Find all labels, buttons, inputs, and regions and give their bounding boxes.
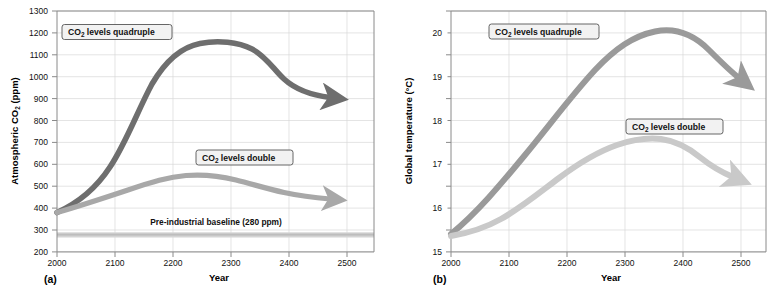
- annotation-preindustrial-baseline: Pre-industrial baseline (280 ppm): [150, 217, 282, 227]
- y-tick-label-a-900: 900: [34, 94, 48, 104]
- x-axis-title-a: Year: [209, 272, 229, 283]
- x-axis-title-b: Year: [601, 272, 621, 283]
- x-tick-label-b-2500: 2500: [732, 258, 751, 268]
- panel-a-svg: 1300 1200 1100 1000 900 800 700 600 500 …: [0, 0, 389, 292]
- callout-a-double-label: CO2 levels double: [202, 153, 276, 164]
- y-tick-label-a-400: 400: [34, 203, 48, 213]
- x-ticks-a: [57, 252, 347, 257]
- y-tick-label-a-800: 800: [34, 116, 48, 126]
- y-tick-label-a-200: 200: [34, 247, 48, 257]
- y-tick-label-b-16: 16: [433, 203, 443, 213]
- figure-two-panel-climate-projection: 1300 1200 1100 1000 900 800 700 600 500 …: [0, 0, 778, 292]
- y-tick-label-a-1100: 1100: [30, 50, 49, 60]
- y-tick-label-a-1200: 1200: [29, 28, 48, 38]
- x-tick-label-a-2000: 2000: [48, 258, 67, 268]
- y-tick-label-a-1300: 1300: [29, 6, 48, 16]
- y-tick-label-a-300: 300: [34, 225, 48, 235]
- callout-a-double[interactable]: CO2 levels double: [196, 150, 293, 165]
- y-tick-label-b-19: 19: [433, 72, 443, 82]
- callout-b-double[interactable]: CO2 levels double: [626, 119, 723, 134]
- x-tick-label-a-2400: 2400: [280, 258, 299, 268]
- callout-a-quadruple[interactable]: CO2 levels quadruple: [62, 25, 172, 40]
- y-axis-title-b: Global temperature (°C): [403, 78, 414, 185]
- x-tick-label-a-2500: 2500: [338, 258, 357, 268]
- x-ticks-b: [451, 252, 741, 257]
- x-tick-label-a-2100: 2100: [106, 258, 125, 268]
- panel-b-svg: 20 19 18 17 16 15 2000 2100 2200 2300 24…: [389, 0, 778, 292]
- panel-a-atmospheric-co2: 1300 1200 1100 1000 900 800 700 600 500 …: [0, 0, 389, 292]
- y-ticks-b: [446, 11, 451, 252]
- y-tick-label-b-18: 18: [433, 116, 443, 126]
- panel-letter-b: (b): [433, 273, 446, 285]
- y-tick-label-a-500: 500: [34, 181, 48, 191]
- y-tick-label-b-17: 17: [433, 159, 443, 169]
- y-tick-label-b-15: 15: [433, 247, 443, 257]
- x-tick-label-b-2400: 2400: [674, 258, 693, 268]
- x-tick-label-b-2200: 2200: [558, 258, 577, 268]
- y-tick-label-b-20: 20: [433, 28, 443, 38]
- callout-b-quadruple[interactable]: CO2 levels quadruple: [489, 24, 599, 39]
- x-tick-label-a-2300: 2300: [222, 258, 241, 268]
- x-tick-label-b-2000: 2000: [442, 258, 461, 268]
- y-tick-label-a-600: 600: [34, 159, 48, 169]
- y-ticks-a: [52, 11, 57, 252]
- x-tick-label-a-2200: 2200: [164, 258, 183, 268]
- panel-b-global-temperature: 20 19 18 17 16 15 2000 2100 2200 2300 24…: [389, 0, 778, 292]
- panel-letter-a: (a): [44, 273, 57, 285]
- callout-b-double-label: CO2 levels double: [632, 122, 706, 133]
- plot-area-a: [57, 11, 374, 252]
- x-tick-label-b-2300: 2300: [616, 258, 635, 268]
- y-axis-title-a: Atmospheric CO2 (ppm): [9, 77, 21, 185]
- preindustrial-baseline-band: [57, 232, 374, 237]
- x-tick-label-b-2100: 2100: [500, 258, 519, 268]
- y-tick-label-a-1000: 1000: [29, 72, 48, 82]
- y-tick-label-a-700: 700: [34, 137, 48, 147]
